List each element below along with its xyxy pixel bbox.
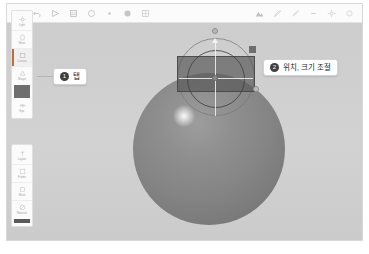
selection-group[interactable] <box>165 28 277 120</box>
eyedropper-icon[interactable] <box>291 9 300 18</box>
sidebar-item-dark-swatch[interactable] <box>14 219 30 223</box>
sidebar-item-material-label: Material <box>17 212 27 215</box>
resize-handle-square[interactable] <box>249 46 256 53</box>
more-icon[interactable] <box>345 9 354 18</box>
sidebar-item-light[interactable]: Light <box>12 13 32 30</box>
callout-1: 1 탭 <box>53 68 87 85</box>
top-toolbar <box>7 4 362 23</box>
sidebar-item-canvas[interactable]: Canvas <box>12 48 32 66</box>
square-icon <box>19 52 26 59</box>
grid-icon[interactable] <box>141 9 150 18</box>
sidebar-bottom-panel: Layout Frame Mask Material <box>11 144 33 227</box>
sphere-icon[interactable] <box>123 9 132 18</box>
callout-1-stem <box>37 76 53 77</box>
sidebar-item-layout-label: Layout <box>18 158 26 161</box>
undo-icon[interactable] <box>33 9 42 18</box>
callout-2-badge: 2 <box>270 63 279 72</box>
sidebar-top-panel: Light Move Canvas Shape Eye <box>11 10 33 119</box>
sidebar-item-move[interactable]: Move <box>12 30 32 48</box>
eye-icon <box>19 102 26 109</box>
dot-icon[interactable] <box>105 9 114 18</box>
callout-1-text: 탭 <box>73 72 80 81</box>
layout-icon <box>19 150 26 157</box>
toolbar-right-group <box>255 4 354 23</box>
sidebar-item-material[interactable]: Material <box>12 200 32 218</box>
sidebar-item-shape[interactable]: Shape <box>12 66 32 84</box>
sidebar-item-canvas-label: Canvas <box>17 60 26 63</box>
callout-2: 2 위치, 크기 조절 <box>263 59 338 76</box>
sun-icon <box>19 16 26 23</box>
canvas-area[interactable] <box>7 23 362 240</box>
circle-icon[interactable] <box>87 9 96 18</box>
rotate-handle[interactable] <box>212 28 218 34</box>
axis-arrow-icon <box>212 38 218 43</box>
sidebar-item-eye-label: Eye <box>20 110 25 113</box>
sidebar-item-frame-label: Frame <box>18 176 26 179</box>
mask-icon <box>19 186 26 193</box>
redo-icon[interactable] <box>51 9 60 18</box>
toolbar-left-group <box>15 4 150 23</box>
frame-icon <box>19 168 26 175</box>
layers-icon[interactable] <box>69 9 78 18</box>
resize-handle-right[interactable] <box>253 86 259 92</box>
sidebar-item-shape-label: Shape <box>18 78 26 81</box>
sidebar-item-eye[interactable]: Eye <box>12 99 32 116</box>
sidebar-item-layout[interactable]: Layout <box>12 147 32 164</box>
settings-icon[interactable] <box>327 9 336 18</box>
callout-2-text: 위치, 크기 조절 <box>283 63 331 72</box>
sidebar-item-frame[interactable]: Frame <box>12 164 32 182</box>
callout-1-badge: 1 <box>60 72 69 81</box>
shape-icon <box>19 70 26 77</box>
sidebar-item-mask[interactable]: Mask <box>12 182 32 200</box>
sidebar-item-light-label: Light <box>19 24 25 27</box>
sidebar-item-mask-label: Mask <box>19 194 26 197</box>
brush-icon[interactable] <box>273 9 282 18</box>
sidebar-item-color-swatch[interactable] <box>14 85 30 98</box>
move-handle-center[interactable] <box>212 75 218 81</box>
minus-icon[interactable] <box>309 9 318 18</box>
sidebar-item-move-label: Move <box>19 42 26 45</box>
material-icon <box>19 204 26 211</box>
app-window: Light Move Canvas Shape Eye <box>6 3 363 241</box>
render-icon[interactable] <box>255 9 264 18</box>
move-icon <box>19 34 26 41</box>
